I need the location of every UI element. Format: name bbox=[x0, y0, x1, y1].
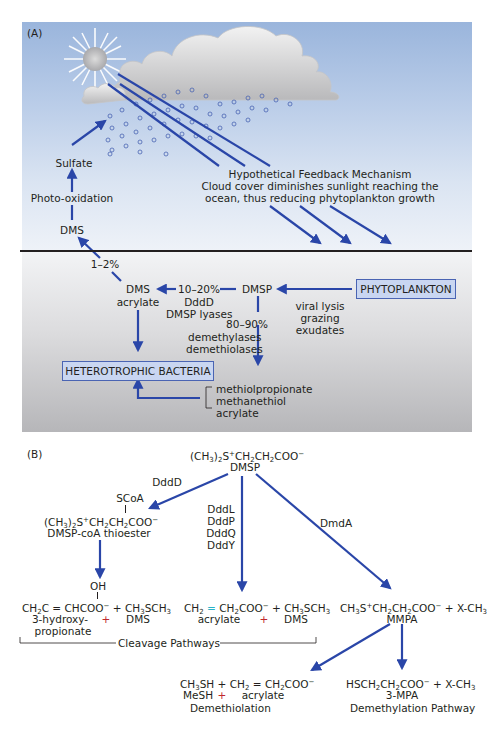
hydroxy-plus: + bbox=[100, 613, 112, 625]
acrylate-dms: DMS bbox=[280, 613, 312, 625]
sun-icon bbox=[64, 28, 126, 90]
sea-surface-line bbox=[20, 250, 472, 252]
demethylation-label: Demethylation Pathway bbox=[350, 702, 460, 714]
grazing-label: grazing bbox=[290, 312, 350, 324]
oh-bond bbox=[97, 592, 98, 599]
scoa-bond bbox=[125, 505, 126, 513]
hydroxy-name-2: propionate bbox=[30, 625, 96, 637]
pct-1-2-label: 1–2% bbox=[90, 258, 120, 270]
hydroxy-dms: DMS bbox=[122, 613, 154, 625]
feedback-line-3: ocean, thus reducing phytoplankton growt… bbox=[190, 192, 450, 204]
phytoplankton-box: PHYTOPLANKTON bbox=[356, 279, 456, 299]
thioester-name: DMSP-coA thioester bbox=[44, 527, 154, 539]
heterotrophic-bacteria-box: HETEROTROPHIC BACTERIA bbox=[62, 361, 214, 381]
dmsp-sea-label: DMSP bbox=[238, 283, 276, 295]
enzyme-dmda: DmdA bbox=[318, 517, 354, 529]
mesh-name: MeSH bbox=[180, 689, 216, 701]
scoa-label: SCoA bbox=[110, 492, 150, 504]
enzyme-dddp: DddP bbox=[206, 515, 236, 527]
demethiolases-label: demethiolases bbox=[186, 343, 256, 355]
demethylases-label: demethylases bbox=[188, 331, 256, 343]
dddd-label: DddD bbox=[176, 296, 222, 308]
dms-air-label: DMS bbox=[54, 224, 90, 236]
enzyme-dddy: DddY bbox=[206, 539, 236, 551]
oh-label: OH bbox=[88, 580, 108, 592]
feedback-arrows bbox=[270, 206, 390, 243]
acrylate-plus: + bbox=[258, 613, 270, 625]
mpa-name: 3-MPA bbox=[380, 689, 424, 701]
mmpa-name: MMPA bbox=[380, 613, 424, 625]
dmsp-name: DMSP bbox=[225, 461, 265, 473]
photo-oxidation-label: Photo-oxidation bbox=[30, 192, 114, 204]
acrylate-name: acrylate bbox=[196, 613, 242, 625]
feedback-line-2: Cloud cover diminishes sunlight reaching… bbox=[190, 180, 450, 192]
sulfate-label: Sulfate bbox=[54, 157, 94, 169]
pct-80-90-label: 80–90% bbox=[220, 318, 268, 330]
dms-sea-label: DMS bbox=[118, 283, 158, 295]
hydroxy-name-1: 3-hydroxy- bbox=[30, 613, 90, 625]
viral-lysis-label: viral lysis bbox=[290, 300, 350, 312]
cleavage-pathways-label: Cleavage Pathways bbox=[118, 637, 218, 649]
enzyme-dddq: DddQ bbox=[206, 527, 236, 539]
demethiolation-label: Demethiolation bbox=[190, 702, 270, 714]
enzyme-dddd: DddD bbox=[150, 476, 184, 488]
product-methiolpropionate: methiolpropionate bbox=[216, 383, 313, 395]
pct-10-20-label: 10–20% bbox=[176, 283, 222, 295]
exudates-label: exudates bbox=[290, 324, 350, 336]
panel-a-label: (A) bbox=[27, 27, 42, 39]
product-methanethiol: methanethiol bbox=[216, 395, 286, 407]
feedback-title: Hypothetical Feedback Mechanism bbox=[190, 168, 450, 180]
mesh-acrylate: acrylate bbox=[240, 689, 286, 701]
acrylate-sea-label: acrylate bbox=[116, 296, 160, 308]
panel-b-label: (B) bbox=[27, 448, 42, 460]
mesh-plus: + bbox=[216, 689, 228, 701]
product-acrylate: acrylate bbox=[216, 407, 259, 419]
enzyme-dddl: DddL bbox=[206, 503, 236, 515]
